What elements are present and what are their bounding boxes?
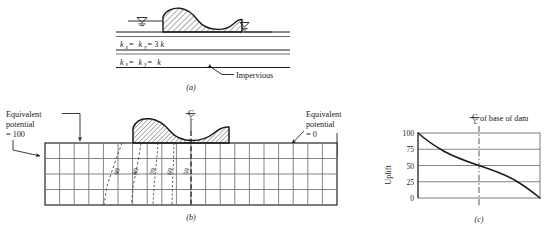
caption-b: (b) [186, 213, 196, 222]
svg-text:k: k [157, 58, 161, 67]
svg-text:L: L [190, 114, 194, 121]
panel-b: Equivalent potential = 100 Equivalent po… [6, 108, 342, 222]
uplift-y-ticks: 100 75 50 25 0 [403, 129, 415, 203]
permeability-label-layer2: k x = k y = k [120, 58, 161, 68]
svg-text:=: = [129, 58, 134, 67]
impervious-label: Impervious [236, 71, 273, 80]
uplift-chart-title: C L of base of dam [470, 112, 529, 125]
svg-text:potential: potential [306, 120, 335, 129]
permeability-label-layer1: k x = k y = 3 k [120, 40, 165, 50]
uplift-axis-label: Uplift [384, 164, 393, 184]
svg-text:50: 50 [406, 162, 414, 171]
panel-a: k x = k y = 3 k k x = k y = k Impervious… [116, 8, 290, 92]
svg-text:Equivalent: Equivalent [6, 110, 42, 119]
svg-text:k: k [139, 40, 143, 49]
water-table-triangle-upstream [137, 18, 147, 26]
svg-text:k: k [120, 40, 124, 49]
svg-text:of base of dam: of base of dam [480, 114, 529, 123]
svg-text:= 3: = 3 [148, 40, 159, 49]
svg-text:Equivalent: Equivalent [306, 110, 342, 119]
svg-text:100: 100 [403, 129, 415, 138]
centerline-mark-panel-b: C L [186, 108, 196, 131]
svg-text:k: k [161, 40, 165, 49]
svg-text:25: 25 [406, 178, 414, 187]
svg-text:= 100: = 100 [6, 130, 25, 139]
svg-text:y: y [143, 61, 147, 67]
svg-text:k: k [139, 58, 143, 67]
panel-c: C L of base of dam Uplift 100 75 50 25 0 [384, 112, 540, 224]
left-equivalent-potential-annotation: Equivalent potential = 100 [6, 110, 42, 139]
left-leader-side [13, 140, 40, 156]
svg-text:k: k [120, 58, 124, 67]
svg-text:L: L [474, 118, 478, 125]
svg-text:= 0: = 0 [306, 130, 317, 139]
svg-text:75: 75 [406, 145, 414, 154]
dam-body-section-a [163, 8, 242, 32]
caption-c: (c) [474, 215, 483, 224]
dam-body-section-b [133, 119, 229, 143]
svg-text:=: = [148, 58, 153, 67]
caption-a: (a) [186, 83, 196, 92]
svg-text:=: = [129, 40, 134, 49]
svg-text:y: y [143, 44, 147, 50]
svg-text:x: x [125, 44, 129, 50]
svg-text:0: 0 [410, 194, 414, 203]
left-leader-top [62, 114, 80, 142]
svg-text:potential: potential [6, 120, 35, 129]
impervious-leader-line [212, 68, 234, 75]
svg-text:x: x [125, 61, 129, 67]
figure-seepage-under-dam: k x = k y = 3 k k x = k y = k Impervious… [0, 0, 548, 234]
right-leader-top [292, 131, 304, 144]
